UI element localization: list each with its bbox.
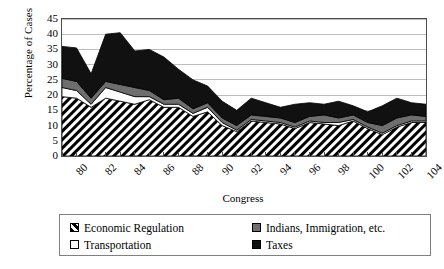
hatch-swatch-icon [70,223,79,232]
x-tick-label: 86 [161,161,177,177]
legend-item-economic-regulation[interactable]: Economic Regulation [70,219,184,236]
y-tick-label: 30 [34,59,58,69]
y-tick-label: 20 [34,89,58,99]
legend-label: Indians, Immigration, etc. [266,222,385,234]
y-tick-label: 25 [34,74,58,84]
x-tick-label: 98 [335,161,351,177]
y-axis-tick-labels: 454035302520151050 [32,0,58,269]
x-tick-label: 102 [395,161,415,181]
x-tick-label: 94 [277,161,293,177]
y-tick-label: 40 [34,28,58,38]
y-tick-label: 35 [34,43,58,53]
y-tick-label: 45 [34,13,58,23]
legend-item-taxes[interactable]: Taxes [252,236,293,253]
area-series-group [62,33,426,156]
y-tick-label: 10 [34,120,58,130]
y-tick-label: 15 [34,104,58,114]
x-tick-label: 104 [424,161,444,181]
legend-label: Economic Regulation [84,222,184,234]
x-tick-label: 90 [219,161,235,177]
x-tick-label: 82 [102,161,118,177]
white-swatch-icon [70,240,79,249]
legend-label: Taxes [266,239,293,251]
x-tick-label: 100 [366,161,386,181]
legend-item-transportation[interactable]: Transportation [70,236,151,253]
black-swatch-icon [252,240,261,249]
x-tick-label: 96 [306,161,322,177]
x-tick-label: 92 [248,161,264,177]
legend-item-indians-immigration[interactable]: Indians, Immigration, etc. [252,219,385,236]
plot-area [61,18,427,157]
chart-legend: Economic Regulation Indians, Immigration… [59,214,431,256]
x-tick-label: 84 [131,161,147,177]
legend-label: Transportation [84,239,151,251]
x-tick-label: 88 [190,161,206,177]
x-axis-tick-labels: 80828486889092949698100102104 [61,157,425,197]
gray-swatch-icon [252,223,261,232]
x-tick-label: 80 [73,161,89,177]
y-tick-label: 5 [34,135,58,145]
plot-svg [62,19,426,156]
y-tick-label: 0 [34,150,58,160]
x-axis-title: Congress [61,192,425,204]
